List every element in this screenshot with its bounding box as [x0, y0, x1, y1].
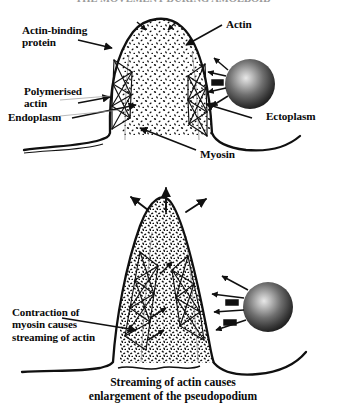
growth-arrow-up-right [186, 199, 206, 212]
dark-sphere-organelle-lower [243, 282, 293, 332]
label-endoplasm-text: Endoplasm [8, 111, 61, 123]
label-contraction-note-line3: streaming of actin [12, 331, 95, 343]
label-endoplasm: Endoplasm [8, 111, 61, 123]
lower-panel-drawing [22, 185, 306, 375]
lower-myosin-linkers [212, 276, 248, 330]
label-ectoplasm: Ectoplasm [266, 110, 315, 122]
figure-caption-line1: Streaming of actin causes [0, 376, 346, 390]
figure-caption-line2: enlargement of the pseudopodium [0, 390, 346, 404]
label-polymerised-actin-line1: Polymerised [24, 85, 82, 97]
label-ectoplasm-text: Ectoplasm [266, 110, 315, 122]
leader-actin [186, 25, 222, 45]
label-contraction-note-line2: myosin causes [12, 318, 77, 330]
label-myosin: Myosin [200, 148, 235, 160]
label-polymerised-actin-line2: actin [24, 97, 47, 109]
dark-sphere-organelle-upper [225, 59, 275, 109]
upper-myosin-linkers [208, 58, 228, 106]
label-polymerised-actin: Polymerisedactin [24, 85, 82, 110]
label-actin-binding-protein-line2: protein [22, 36, 56, 48]
label-actin-binding-protein-line1: Actin-binding [22, 24, 87, 36]
label-myosin-text: Myosin [200, 148, 235, 160]
diagram-canvas [0, 0, 346, 417]
label-contraction-note: Contraction ofmyosin causesstreaming of … [12, 306, 95, 343]
label-actin-text: Actin [226, 18, 252, 30]
label-contraction-note-line1: Contraction of [12, 306, 79, 318]
lower-actin-stipple [108, 185, 218, 367]
label-actin-binding-protein: Actin-bindingprotein [22, 24, 87, 49]
lower-base-membrane [118, 366, 200, 369]
growth-arrow-up-left [131, 197, 148, 210]
figure-root: THE MOVEMENT DURING AMOEBOID [0, 0, 346, 417]
label-actin: Actin [226, 18, 252, 30]
